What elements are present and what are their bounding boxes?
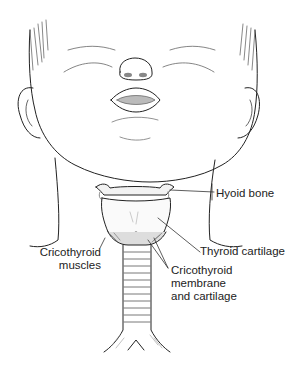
mouth: [111, 88, 160, 112]
trachea: [104, 245, 170, 352]
label-cricothyroid-membrane: Cricothyroid membrane and cartilage: [171, 264, 237, 303]
label-thyroid-cartilage: Thyroid cartilage: [200, 245, 285, 258]
label-cricothyroid-membrane-line2: membrane: [171, 277, 237, 290]
chin: [112, 117, 158, 140]
label-hyoid-bone: Hyoid bone: [216, 187, 274, 200]
label-cricothyroid-membrane-line1: Cricothyroid: [171, 264, 237, 277]
label-cricothyroid-muscles: Cricothyroid muscles: [35, 246, 101, 272]
label-cricothyroid-membrane-line3: and cartilage: [171, 290, 237, 303]
ears: [18, 88, 259, 138]
nose: [120, 58, 152, 80]
label-cricothyroid-muscles-line2: muscles: [35, 259, 101, 272]
label-cricothyroid-muscles-line1: Cricothyroid: [35, 246, 101, 259]
closed-eyes: [64, 46, 215, 72]
thyroid-cartilage: [101, 198, 170, 235]
cricothyroid-region: [108, 232, 166, 245]
hyoid-bone: [96, 184, 174, 201]
infant-neck-illustration: [0, 0, 297, 372]
anatomy-diagram: Hyoid bone Thyroid cartilage Cricothyroi…: [0, 0, 297, 372]
